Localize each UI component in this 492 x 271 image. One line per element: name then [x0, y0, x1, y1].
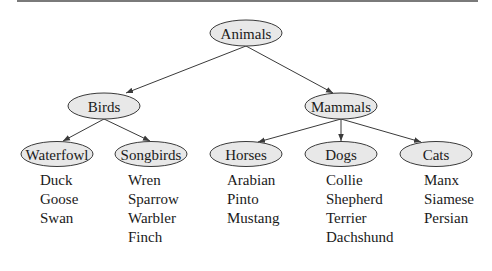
- animal-taxonomy-tree: Animals Birds Mammals Waterfowl Songbird…: [0, 0, 492, 271]
- leaf-item: Manx: [424, 172, 459, 188]
- leaf-item: Pinto: [227, 191, 259, 207]
- leaf-item: Arabian: [227, 172, 276, 188]
- node-label: Horses: [225, 147, 267, 163]
- leaf-item: Swan: [40, 210, 74, 226]
- node-waterfowl: Waterfowl: [21, 142, 93, 167]
- leaf-item: Dachshund: [326, 229, 394, 245]
- edge-birds-waterfowl: [63, 119, 104, 141]
- node-horses: Horses: [210, 142, 282, 167]
- node-label: Songbirds: [121, 147, 182, 163]
- node-label: Dogs: [325, 147, 357, 163]
- edge-animals-birds: [126, 46, 246, 93]
- edge-birds-songbirds: [104, 119, 150, 141]
- leaf-item: Duck: [40, 172, 73, 188]
- leaf-item: Warbler: [128, 210, 176, 226]
- node-dogs: Dogs: [305, 142, 377, 167]
- node-cats: Cats: [400, 142, 472, 167]
- leaf-item: Persian: [424, 210, 469, 226]
- leaf-item: Goose: [40, 191, 79, 207]
- node-songbirds: Songbirds: [115, 142, 187, 167]
- edge-mammals-horses: [258, 119, 341, 142]
- leaf-list-waterfowl: Duck Goose Swan: [40, 172, 79, 226]
- leaf-item: Collie: [326, 172, 363, 188]
- leaf-item: Siamese: [424, 191, 474, 207]
- leaf-item: Wren: [128, 172, 161, 188]
- node-birds: Birds: [68, 93, 140, 119]
- node-mammals: Mammals: [305, 93, 377, 119]
- leaf-list-horses: Arabian Pinto Mustang: [227, 172, 280, 226]
- leaf-list-songbirds: Wren Sparrow Warbler Finch: [128, 172, 179, 245]
- node-label: Birds: [88, 99, 121, 115]
- edge-animals-mammals: [246, 46, 333, 93]
- edge-mammals-cats: [341, 119, 421, 142]
- node-label: Mammals: [311, 99, 371, 115]
- leaf-item: Sparrow: [128, 191, 179, 207]
- leaf-list-dogs: Collie Shepherd Terrier Dachshund: [326, 172, 394, 245]
- leaf-item: Finch: [128, 229, 163, 245]
- leaf-item: Shepherd: [326, 191, 383, 207]
- node-label: Cats: [423, 147, 450, 163]
- leaf-item: Terrier: [326, 210, 367, 226]
- node-label: Waterfowl: [26, 147, 89, 163]
- node-label: Animals: [221, 26, 272, 42]
- leaf-list-cats: Manx Siamese Persian: [424, 172, 474, 226]
- node-animals: Animals: [210, 20, 282, 46]
- leaf-item: Mustang: [227, 210, 280, 226]
